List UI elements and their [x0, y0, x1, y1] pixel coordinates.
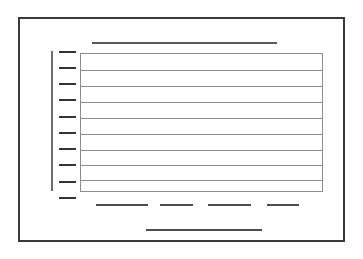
legend-dash-3 [208, 204, 251, 206]
grid-row-divider [81, 70, 322, 71]
y-tick-dash [59, 132, 76, 134]
grid-row-divider [81, 118, 322, 119]
legend-dash-2 [160, 204, 193, 206]
grid-row-divider [81, 165, 322, 166]
grid-row-divider [81, 102, 322, 103]
y-tick-dash [59, 51, 76, 53]
y-tick-dash [59, 67, 76, 69]
y-tick-dash [59, 83, 76, 85]
y-tick-dash [59, 181, 76, 183]
x-axis-label-placeholder [146, 229, 262, 231]
grid-row-divider [81, 134, 322, 135]
y-tick-dash [59, 116, 76, 118]
y-tick-dash [59, 164, 76, 166]
grid-row-divider [81, 180, 322, 181]
legend-dash-1 [96, 204, 148, 206]
y-axis-tick-group [59, 51, 77, 199]
y-tick-dash [59, 148, 76, 150]
y-tick-dash [59, 99, 76, 101]
wireframe-canvas [0, 0, 363, 259]
grid-row-divider [81, 150, 322, 151]
grid-row-divider [81, 86, 322, 87]
title-placeholder-line [92, 42, 277, 44]
legend-dash-4 [267, 204, 299, 206]
vertical-axis-line [51, 51, 53, 191]
y-tick-dash [59, 197, 76, 199]
plot-grid-box [80, 53, 323, 192]
